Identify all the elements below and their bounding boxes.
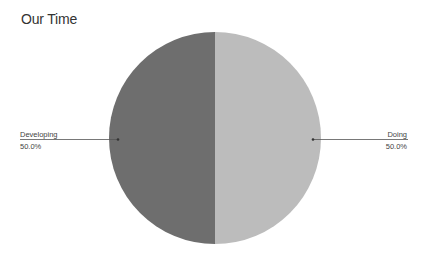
slice-percent: 50.0% [386,142,407,152]
pie-chart [0,0,427,256]
slice-label-developing: Developing 50.0% [20,130,58,152]
slice-label-doing: Doing 50.0% [386,130,407,152]
slice-percent: 50.0% [20,142,58,152]
slice-name: Doing [386,130,407,140]
pie-slice-developing[interactable] [109,32,215,244]
pie-slice-doing[interactable] [215,32,321,244]
leader-dot-developing [117,138,120,141]
slice-name: Developing [20,130,58,140]
leader-dot-doing [312,138,315,141]
